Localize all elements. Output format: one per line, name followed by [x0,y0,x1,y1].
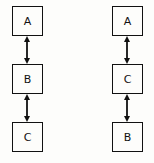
left-chain: A B C [0,0,77,163]
node-left-2-label: B [24,74,32,85]
node-left-3[interactable]: C [12,122,43,152]
connector-right-1 [120,36,134,64]
connector-left-2 [20,94,34,122]
node-left-1[interactable]: A [12,6,43,36]
double-headed-arrow-icon [20,94,34,122]
double-headed-arrow-icon [120,94,134,122]
diagram-canvas: A B C A [0,0,154,163]
node-left-2[interactable]: B [12,64,43,94]
node-right-2-label: C [124,74,132,85]
node-right-1-label: A [124,16,132,27]
connector-left-1 [20,36,34,64]
node-left-1-label: A [24,16,32,27]
node-left-3-label: C [24,132,32,143]
double-headed-arrow-icon [120,36,134,64]
node-right-1[interactable]: A [112,6,143,36]
right-chain: A C B [77,0,154,163]
node-right-2[interactable]: C [112,64,143,94]
connector-right-2 [120,94,134,122]
node-right-3-label: B [124,132,132,143]
double-headed-arrow-icon [20,36,34,64]
node-right-3[interactable]: B [112,122,143,152]
